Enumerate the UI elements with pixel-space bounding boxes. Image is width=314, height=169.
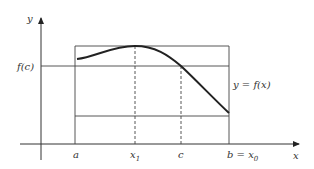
b-label: b = x0: [227, 149, 259, 163]
y-axis-label: y: [26, 13, 33, 24]
x1-label: x1: [130, 149, 140, 163]
x-axis-label: x: [293, 150, 299, 161]
fc-label: f(c): [16, 61, 34, 72]
curve-label: y = f(x): [232, 79, 271, 90]
a-label: a: [73, 149, 79, 160]
c-label: c: [178, 149, 184, 160]
function-diagram: y x f(c) a x1 c b = x0 y = f(x): [0, 0, 314, 169]
function-curve: [77, 46, 229, 113]
